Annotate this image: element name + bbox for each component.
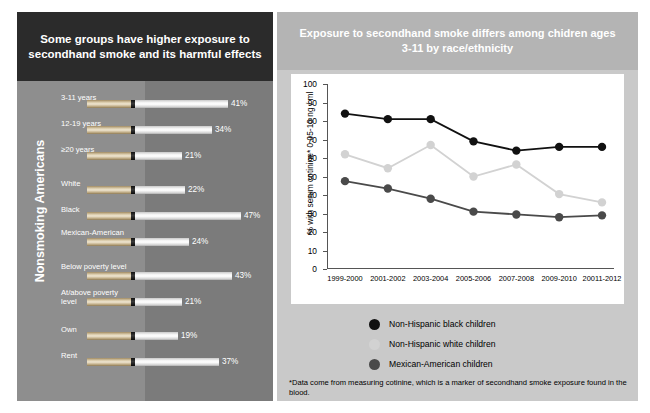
bar-row: ≥20 years21% [17,146,273,168]
data-point [555,190,563,198]
cigarette-bar [87,238,189,246]
data-point [555,213,563,221]
cigarette-filter [87,332,131,340]
bar-label: Below poverty level [61,263,127,272]
cigarette-filter [87,152,131,160]
bar-value: 21% [185,297,201,306]
x-tick-label: 2003-2004 [408,274,454,283]
series-non-hispanic-black-children [341,109,606,154]
cigarette-filter [87,212,131,220]
bar-value: 47% [244,211,260,220]
bar-value: 41% [231,99,247,108]
cigarette-bar [87,272,232,280]
legend-item: Mexican-American children [369,354,609,374]
cigarette-filter [87,358,131,366]
data-point [341,150,349,158]
bar-label: Mexican-American [61,229,127,238]
x-tick-label: 2001-2002 [365,274,411,283]
bar-row: At/above poverty level21% [17,292,273,314]
cigarette-body [135,152,182,160]
cigarette-bar [87,186,185,194]
legend-dot-icon [369,319,380,330]
cigarette-filter [87,186,131,194]
bar-row: Own19% [17,326,273,348]
series-layer [291,74,624,304]
legend-dot-icon [369,339,380,350]
bar-row: 3-11 years41% [17,94,273,116]
data-point [426,141,434,149]
data-point [384,164,392,172]
x-tick-label: 2007-2008 [493,274,539,283]
data-point [512,160,520,168]
legend-label: Mexican-American children [389,359,493,369]
cigarette-bar [87,212,241,220]
data-point [426,195,434,203]
data-point [512,210,520,218]
data-point [598,198,606,206]
x-tick-label: 20011-2012 [579,274,625,283]
cigarette-body [135,212,241,220]
data-point [384,115,392,123]
bar-value: 19% [181,331,197,340]
cigarette-body [135,298,182,306]
cigarette-body [135,126,212,134]
data-point [384,184,392,192]
chart-legend: Non-Hispanic black childrenNon-Hispanic … [369,314,609,374]
cigarette-bar [87,126,212,134]
cigarette-bar [87,298,182,306]
bar-value: 37% [222,357,238,366]
series-mexican-american-children [341,177,606,221]
bar-row: Black47% [17,206,273,228]
left-panel: Nonsmoking Americans 3-11 years41%12-19 … [0,0,273,413]
data-point [426,115,434,123]
cigarette-bar [87,100,228,108]
bar-row: White22% [17,180,273,202]
bar-row: Mexican-American24% [17,232,273,254]
cigarette-body [135,100,228,108]
data-point [341,177,349,185]
data-point [555,143,563,151]
cigarette-bar [87,358,219,366]
cigarette-filter [87,126,131,134]
cigarette-body [135,272,232,280]
right-panel-title: Exposure to secondhand smoke differs amo… [277,12,638,70]
right-panel: Exposure to secondhand smoke differs amo… [277,12,638,401]
data-point [598,143,606,151]
footnote: *Data come from measuring cotinine, whic… [289,378,634,398]
data-point [512,146,520,154]
data-point [469,137,477,145]
cigarette-bar [87,332,178,340]
left-panel-title: Some groups have higher exposure to seco… [17,12,273,81]
x-tick-label: 2005-2006 [451,274,497,283]
bar-value: 24% [192,237,208,246]
bar-value: 34% [215,125,231,134]
series-non-hispanic-white-children [341,141,606,207]
cigarette-body [135,238,189,246]
cigarette-filter [87,238,131,246]
bar-row: 12-19 years34% [17,120,273,142]
data-point [469,207,477,215]
legend-item: Non-Hispanic black children [369,314,609,334]
cigarette-bar [87,152,182,160]
line-chart: % with serum cotinine* 0.05-10 ng / ml 0… [291,74,624,304]
cigarette-body [135,332,178,340]
bar-row: Rent37% [17,352,273,374]
data-point [341,109,349,117]
infographic-root: Nonsmoking Americans 3-11 years41%12-19 … [0,0,650,413]
legend-label: Non-Hispanic black children [389,319,496,329]
x-tick-label: 2009-2010 [536,274,582,283]
legend-label: Non-Hispanic white children [389,339,496,349]
data-point [469,172,477,180]
x-tick-label: 1999-2000 [322,274,368,283]
legend-item: Non-Hispanic white children [369,334,609,354]
cigarette-filter [87,272,131,280]
cigarette-body [135,186,185,194]
cigarette-body [135,358,219,366]
bar-value: 43% [235,271,251,280]
bar-value: 22% [188,185,204,194]
bar-value: 21% [185,151,201,160]
legend-dot-icon [369,359,380,370]
cigarette-filter [87,100,131,108]
data-point [598,211,606,219]
bar-row: Below poverty level43% [17,266,273,288]
